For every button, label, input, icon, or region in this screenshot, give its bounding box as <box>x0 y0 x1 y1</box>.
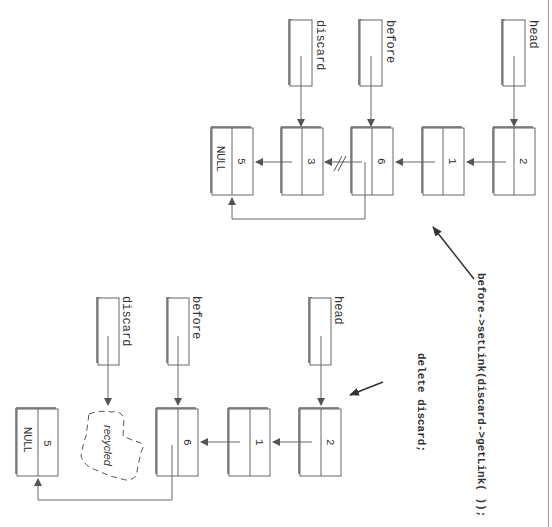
pointer-label: before <box>189 296 203 339</box>
null-link-label: NULL <box>215 146 226 172</box>
pointer-label: discard <box>119 296 133 346</box>
linked-list-delete-diagram: head before discard 2 1 <box>0 0 552 527</box>
bottom-diagram: head before discard 2 1 <box>15 296 345 500</box>
node-3-top: 3 <box>280 126 323 195</box>
code-set-link: before->setLink(discard->getLink( )); <box>475 273 487 517</box>
pointer-before-top: before <box>358 19 397 126</box>
recycled-label: recycled <box>102 425 114 467</box>
code-delete: delete discard; <box>415 353 427 452</box>
pointer-discard-bottom: discard <box>96 296 133 405</box>
step-arrow-top <box>433 227 474 279</box>
page-border <box>548 0 549 527</box>
pointer-label: before <box>383 20 397 63</box>
pointer-label: head <box>331 296 345 325</box>
node-value: 6 <box>181 439 193 446</box>
pointer-before-bottom: before <box>166 296 203 405</box>
node-5-top: 5 NULL <box>210 126 253 195</box>
pointer-head-top: head <box>501 19 540 126</box>
node-5-bottom: 5 NULL <box>15 407 58 476</box>
recycled-blob: recycled <box>81 411 143 480</box>
node-6-top: 6 <box>350 126 393 195</box>
node-1-top: 1 <box>421 126 464 195</box>
pointer-discard-top: discard <box>288 19 327 126</box>
node-value: 5 <box>41 440 53 447</box>
pointer-head-bottom: head <box>308 296 345 405</box>
pointer-label: discard <box>313 20 327 70</box>
node-value: 5 <box>235 158 247 165</box>
broken-link-marker <box>334 156 346 171</box>
node-2-top: 2 <box>492 126 535 195</box>
node-6-bottom: 6 <box>155 407 198 476</box>
node-value: 2 <box>324 439 336 446</box>
null-link-label: NULL <box>22 427 33 453</box>
node-value: 3 <box>305 158 317 165</box>
top-diagram: head before discard 2 1 <box>210 19 540 219</box>
node-value: 1 <box>253 439 265 446</box>
node-value: 2 <box>517 158 529 165</box>
step-arrow-bottom <box>350 382 383 395</box>
pointer-label: head <box>526 20 540 49</box>
node-value: 1 <box>446 158 458 165</box>
node-value: 6 <box>375 158 387 165</box>
